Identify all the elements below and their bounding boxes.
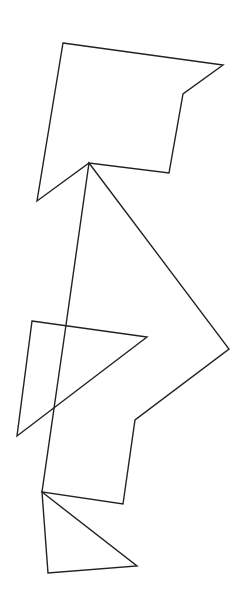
tangram-figure	[0, 0, 241, 595]
line-drawing	[0, 0, 241, 595]
middle-triangle	[17, 321, 147, 436]
long-quadrilateral-shape	[42, 163, 229, 504]
top-pentagon-shape	[37, 43, 223, 201]
